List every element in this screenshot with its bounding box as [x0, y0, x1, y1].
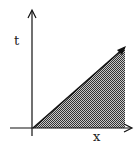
t-axis-label: t [14, 34, 19, 47]
diagram-canvas [0, 0, 136, 152]
x-axis-label: x [93, 130, 100, 143]
